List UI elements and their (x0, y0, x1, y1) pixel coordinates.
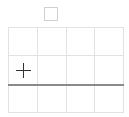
crosshair-plus-icon (16, 63, 31, 78)
grid-cell[interactable] (9, 85, 38, 113)
horizontal-divider-line (8, 84, 124, 86)
grid-cell[interactable] (9, 28, 38, 56)
grid-cell[interactable] (95, 85, 124, 113)
grid-cell[interactable] (38, 56, 67, 84)
grid-cell[interactable] (67, 85, 96, 113)
grid-cell[interactable] (95, 56, 124, 84)
grid-cell[interactable] (67, 56, 96, 84)
grid-cell[interactable] (38, 85, 67, 113)
grid-cell[interactable] (95, 28, 124, 56)
square-outline-icon[interactable] (44, 7, 58, 21)
grid-cell[interactable] (67, 28, 96, 56)
grid-cell[interactable] (38, 28, 67, 56)
